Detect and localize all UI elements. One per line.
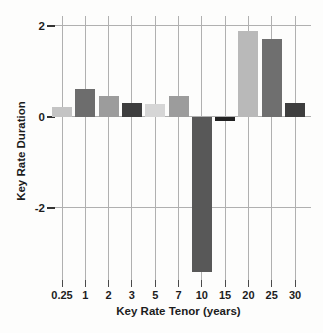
bar-1 xyxy=(75,89,95,116)
x-tick xyxy=(271,280,272,287)
v-gridline xyxy=(131,16,132,286)
v-gridline xyxy=(108,16,109,286)
h-gridline xyxy=(50,207,311,208)
bar-3 xyxy=(122,103,142,117)
bar-15 xyxy=(215,117,235,122)
h-gridline xyxy=(50,25,311,26)
x-tick xyxy=(201,280,202,287)
x-tick xyxy=(131,280,132,287)
bar-7 xyxy=(169,96,189,117)
v-gridline xyxy=(155,16,156,286)
bar-5 xyxy=(145,104,165,116)
y-tick-label: -2 xyxy=(19,202,45,214)
bar-25 xyxy=(262,39,282,117)
x-tick-label: 30 xyxy=(279,289,311,301)
v-gridline xyxy=(85,16,86,286)
v-gridline xyxy=(178,16,179,286)
y-tick xyxy=(47,25,55,27)
x-tick xyxy=(85,280,86,287)
x-tick xyxy=(248,280,249,287)
y-tick xyxy=(47,207,55,209)
v-gridline xyxy=(62,16,63,286)
bar-20 xyxy=(238,31,258,117)
key-rate-duration-chart: Key Rate Duration Key Rate Tenor (years)… xyxy=(0,0,323,333)
x-tick xyxy=(155,280,156,287)
x-tick xyxy=(295,280,296,287)
x-tick xyxy=(62,280,63,287)
y-tick-label: 0 xyxy=(19,111,45,123)
y-tick-label: 2 xyxy=(19,20,45,32)
bar-30 xyxy=(285,103,305,117)
x-tick xyxy=(108,280,109,287)
x-tick xyxy=(178,280,179,287)
bar-2 xyxy=(99,96,119,117)
plot-area: 0.2512357101520253020-2 xyxy=(0,0,323,333)
bar-10 xyxy=(192,117,212,273)
v-gridline xyxy=(295,16,296,286)
bar-0.25 xyxy=(52,107,72,117)
x-tick xyxy=(225,280,226,287)
v-gridline xyxy=(225,16,226,286)
